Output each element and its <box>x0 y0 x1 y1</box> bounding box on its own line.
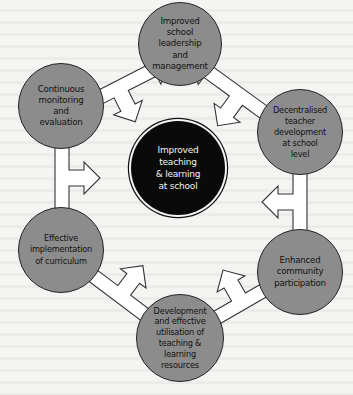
node-label: Continuous monitoring and evaluation <box>38 84 85 129</box>
node-teaching-learning-resources: Development and effective utilisation of… <box>136 294 224 382</box>
node-curriculum-implementation: Effective implementation of curriculum <box>18 207 104 293</box>
node-monitoring-evaluation: Continuous monitoring and evaluation <box>18 63 104 149</box>
node-community-participation: Enhanced community participation <box>257 229 343 315</box>
node-label: Improved school leadership and managemen… <box>152 16 208 72</box>
node-label: Development and effective utilisation of… <box>154 306 207 371</box>
hub-label: Improved teaching & learning at school <box>156 144 201 192</box>
hub-node-improved-teaching-learning: Improved teaching & learning at school <box>131 121 225 215</box>
node-teacher-development: Decentralised teacher development at sch… <box>257 89 343 175</box>
node-label: Effective implementation of curriculum <box>30 233 92 267</box>
node-label: Enhanced community participation <box>274 255 326 289</box>
node-school-leadership: Improved school leadership and managemen… <box>138 2 222 86</box>
node-label: Decentralised teacher development at sch… <box>273 105 327 160</box>
